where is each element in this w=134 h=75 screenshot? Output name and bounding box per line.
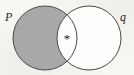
set-label-q: q: [120, 11, 126, 23]
asterisk-marker: *: [64, 31, 71, 46]
venn-diagram-canvas: *: [0, 0, 134, 75]
venn-diagram-figure: * P q: [0, 0, 134, 75]
set-label-p: P: [5, 11, 12, 23]
